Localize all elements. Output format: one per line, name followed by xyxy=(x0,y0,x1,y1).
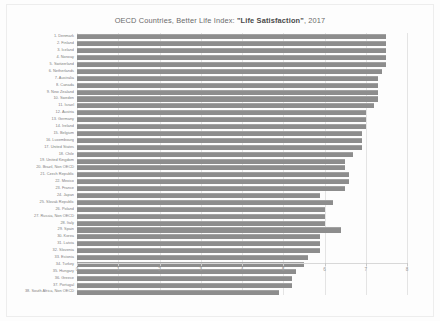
y-axis-tick-label: 9. New Zealand xyxy=(47,89,74,93)
y-axis-tick-label: 32. Slovenia xyxy=(53,248,74,252)
y-axis-tick-label: 8. Canada xyxy=(56,82,74,86)
x-axis-tick-label: 5 xyxy=(282,267,285,272)
y-axis-tick-label: 1. Denmark xyxy=(54,34,74,38)
bar xyxy=(77,131,362,136)
bar xyxy=(77,179,349,184)
bar xyxy=(77,83,378,88)
y-axis-tick-label: 33. Estonia xyxy=(55,255,74,259)
chart-title-emphasis: "Life Satisfaction" xyxy=(237,16,304,25)
x-axis-tick-label: 3 xyxy=(199,267,202,272)
bar xyxy=(77,34,386,39)
x-axis-tick-mark xyxy=(407,263,408,266)
bar xyxy=(77,69,382,74)
chart-title-suffix: , 2017 xyxy=(304,16,325,25)
x-axis-tick-mark xyxy=(283,263,284,266)
y-axis-tick-label: 14. Ireland xyxy=(56,124,74,128)
y-axis-tick-label: 15. Belgium xyxy=(53,131,74,135)
y-axis-tick-label: 17. United States xyxy=(44,144,74,148)
bar xyxy=(77,214,325,219)
bar xyxy=(77,152,353,157)
y-axis-tick-label: 7. Australia xyxy=(55,75,74,79)
x-axis-tick-mark xyxy=(160,263,161,266)
y-axis-tick-label: 25. Slovak Republic xyxy=(40,200,74,204)
x-axis-tick-label: 2 xyxy=(158,267,161,272)
bar xyxy=(77,255,308,260)
y-axis-tick-label: 19. United Kingdom xyxy=(40,158,74,162)
bar xyxy=(77,207,325,212)
chart-title-prefix: OECD Countries, Better Life Index: xyxy=(115,16,237,25)
y-axis-tick-label: 35. Hungary xyxy=(53,269,74,273)
bar xyxy=(77,110,366,115)
bar xyxy=(77,234,320,239)
x-axis-tick-label: 4 xyxy=(241,267,244,272)
y-axis-tick-label: 18. Chile xyxy=(59,151,74,155)
y-axis-tick-label: 16. Luxembourg xyxy=(46,138,74,142)
bar xyxy=(77,138,362,143)
bar xyxy=(77,145,362,150)
y-axis-tick-label: 10. Sweden xyxy=(53,96,74,100)
x-axis-tick-mark xyxy=(325,263,326,266)
y-axis-tick-label: 5. Switzerland xyxy=(50,62,74,66)
bar xyxy=(77,48,386,53)
x-axis-tick-label: 8 xyxy=(406,267,409,272)
x-axis-tick-mark xyxy=(242,263,243,266)
bar xyxy=(77,165,345,170)
bar xyxy=(77,172,349,177)
y-axis-tick-label: 29. Spain xyxy=(58,227,74,231)
y-axis-labels: 1. Denmark2. Finland3. Iceland4. Norway5… xyxy=(0,33,76,295)
plot-wrapper: 1. Denmark2. Finland3. Iceland4. Norway5… xyxy=(0,33,440,298)
y-axis-tick-label: 13. Germany xyxy=(52,117,75,121)
y-axis-tick-label: 30. Korea xyxy=(57,234,74,238)
x-axis-tick-label: 7 xyxy=(364,267,367,272)
x-axis-tick-mark xyxy=(118,263,119,266)
bar xyxy=(77,283,292,288)
y-axis-tick-label: 2. Finland xyxy=(57,41,74,45)
bar xyxy=(77,241,320,246)
y-axis-tick-label: 34. Turkey xyxy=(56,262,74,266)
x-axis-tick-label: 0 xyxy=(76,267,79,272)
bar xyxy=(77,248,320,253)
bar xyxy=(77,186,345,191)
bar xyxy=(77,221,325,226)
bar xyxy=(77,290,279,295)
y-axis-tick-label: 38. South Africa, Non OECD xyxy=(25,289,74,293)
x-axis-tick-label: 6 xyxy=(323,267,326,272)
y-axis-tick-label: 22. Mexico xyxy=(55,179,74,183)
y-axis-tick-label: 36. Greece xyxy=(55,275,74,279)
y-axis-tick-label: 27. Russia, Non OECD xyxy=(34,213,74,217)
bar xyxy=(77,193,320,198)
bar xyxy=(77,41,386,46)
y-axis-tick-label: 20. Brazil, Non OECD xyxy=(36,165,74,169)
y-axis-tick-label: 23. France xyxy=(55,186,74,190)
y-axis-tick-label: 6. Netherlands xyxy=(49,69,74,73)
chart-page: OECD Countries, Better Life Index: "Life… xyxy=(0,0,440,321)
y-axis-tick-label: 37. Portugal xyxy=(53,282,74,286)
y-axis-tick-label: 31. Latvia xyxy=(57,241,74,245)
y-axis-tick-label: 24. Japan xyxy=(57,193,74,197)
bar xyxy=(77,159,345,164)
x-axis-tick-mark xyxy=(77,263,78,266)
bar xyxy=(77,124,366,129)
bar xyxy=(77,117,366,122)
y-axis-tick-label: 28. Italy xyxy=(60,220,74,224)
bar xyxy=(77,96,378,101)
bar xyxy=(77,76,378,81)
bar xyxy=(77,55,386,60)
x-axis-tick-label: 1 xyxy=(117,267,120,272)
bar xyxy=(77,200,333,205)
bar xyxy=(77,103,374,108)
bar xyxy=(77,90,378,95)
bar xyxy=(77,227,341,232)
x-axis: 012345678 xyxy=(77,263,407,281)
y-axis-tick-label: 11. Israel xyxy=(58,103,74,107)
x-axis-tick-mark xyxy=(366,263,367,266)
chart-title: OECD Countries, Better Life Index: "Life… xyxy=(0,16,440,25)
x-axis-tick-mark xyxy=(201,263,202,266)
plot-area xyxy=(77,33,407,295)
bar xyxy=(77,62,386,67)
y-axis-tick-label: 4. Norway xyxy=(56,55,74,59)
y-axis-tick-label: 3. Iceland xyxy=(57,48,74,52)
y-axis-tick-label: 26. Poland xyxy=(55,206,74,210)
y-axis-tick-label: 21. Czech Republic xyxy=(40,172,74,176)
gridline xyxy=(407,33,408,295)
